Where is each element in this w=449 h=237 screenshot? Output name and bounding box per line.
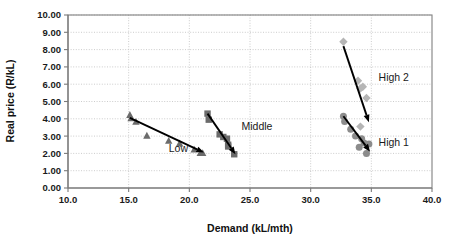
x-tick-label: 20.0 <box>180 194 199 205</box>
scatter-chart: 0.001.002.003.004.005.006.007.008.009.00… <box>0 0 449 237</box>
x-tick-label: 35.0 <box>362 194 381 205</box>
y-tick-label: 7.00 <box>43 61 62 72</box>
y-tick-label: 3.00 <box>43 131 62 142</box>
y-tick-label: 0.00 <box>43 182 62 193</box>
x-tick-label: 40.0 <box>423 194 442 205</box>
chart-container: 0.001.002.003.004.005.006.007.008.009.00… <box>0 0 449 237</box>
y-tick-label: 10.00 <box>37 9 61 20</box>
y-tick-label: 5.00 <box>43 96 62 107</box>
data-point <box>363 150 370 157</box>
x-axis-title: Demand (kL/mth) <box>207 222 293 234</box>
y-tick-label: 4.00 <box>43 113 62 124</box>
x-tick-label: 10.0 <box>59 194 78 205</box>
y-tick-label: 8.00 <box>43 44 62 55</box>
x-tick-label: 15.0 <box>119 194 138 205</box>
series-label-high-1: High 1 <box>379 136 410 148</box>
y-tick-label: 2.00 <box>43 148 62 159</box>
series-label-middle: Middle <box>242 120 273 132</box>
y-tick-label: 6.00 <box>43 79 62 90</box>
x-tick-label: 25.0 <box>241 194 260 205</box>
series-label-high-2: High 2 <box>379 71 410 83</box>
x-tick-marks <box>68 188 432 192</box>
y-axis-title: Real price (R/kL) <box>4 60 16 143</box>
y-tick-label: 9.00 <box>43 27 62 38</box>
y-tick-label: 1.00 <box>43 165 62 176</box>
y-tick-labels: 0.001.002.003.004.005.006.007.008.009.00… <box>37 9 61 193</box>
x-tick-labels: 10.015.020.025.030.035.040.0 <box>59 194 442 205</box>
series-label-low: Low <box>169 142 189 154</box>
x-tick-label: 30.0 <box>301 194 320 205</box>
